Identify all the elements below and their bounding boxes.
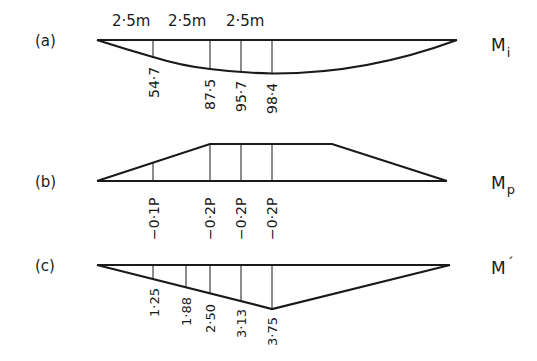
panel-b-tag: (b) (35, 173, 56, 191)
symbol-mp: Mp (491, 173, 515, 197)
ordinate-value-b2: −0·2P (202, 198, 218, 240)
panel-b-moment-diagram: (b) −0·1P −0·2P −0·2P −0·2P Mp (35, 144, 515, 240)
ordinate-value-b4: −0·2P (264, 198, 280, 240)
ordinate-value-b1: −0·1P (146, 198, 162, 240)
symbol-mi: Mi (491, 35, 510, 60)
panel-a-moment-diagram: (a) 2·5m 2·5m 2·5m 54·7 87·5 95·7 98·4 M… (35, 12, 510, 114)
span-label-2: 2·5m (168, 12, 206, 30)
span-label-1: 2·5m (112, 12, 150, 30)
ordinate-value-b3: −0·2P (233, 198, 249, 240)
ordinate-value-c5: 3·75 (265, 317, 280, 346)
ordinate-value-c3: 2·50 (203, 304, 218, 333)
ordinate-value-a1: 54·7 (146, 67, 162, 98)
span-label-3: 2·5m (226, 12, 264, 30)
ordinate-value-a2: 87·5 (202, 79, 218, 110)
ordinate-value-c2: 1·88 (179, 297, 194, 326)
symbol-m-prime: M´ (491, 255, 514, 278)
panel-a-tag: (a) (35, 32, 56, 50)
ordinate-value-c1: 1·25 (147, 288, 162, 317)
ordinate-value-c4: 3·13 (234, 309, 249, 338)
panel-c-tag: (c) (35, 257, 55, 275)
ordinate-value-a4: 98·4 (264, 83, 280, 114)
panel-c-moment-diagram: (c) 1·25 1·88 2·50 3·13 3·75 M´ (35, 255, 514, 346)
ordinate-value-a3: 95·7 (233, 81, 249, 112)
